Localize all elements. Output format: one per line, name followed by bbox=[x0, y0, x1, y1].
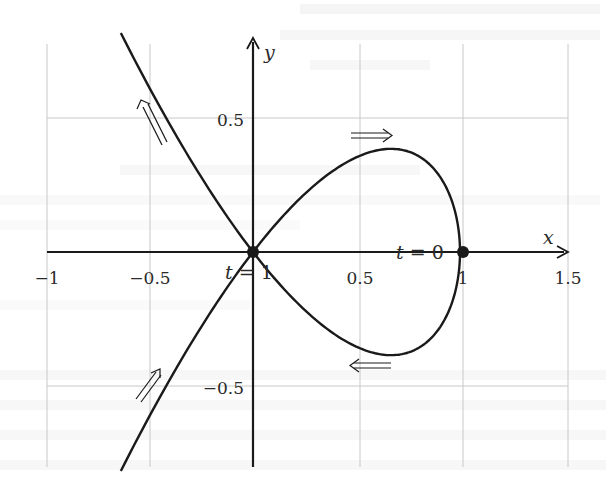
y-tick-label: 0.5 bbox=[217, 110, 244, 130]
y-tick-labels: 0.5 −0.5 bbox=[203, 110, 244, 398]
double-arrow-up-left-icon bbox=[137, 100, 167, 145]
point-t1-marker bbox=[247, 246, 259, 258]
x-tick-label: −1 bbox=[34, 268, 59, 288]
x-tick-label: 1.5 bbox=[554, 268, 581, 288]
x-axis-label: x bbox=[543, 226, 554, 248]
x-tick-label: −0.5 bbox=[129, 268, 170, 288]
x-tick-label: 0.5 bbox=[346, 268, 373, 288]
point-t0-marker bbox=[457, 246, 469, 258]
parametric-curve-figure: x y −1 −0.5 0.5 1 1.5 0.5 −0.5 t = 0 t =… bbox=[0, 0, 606, 491]
double-arrow-right-icon bbox=[351, 129, 392, 142]
x-tick-labels: −1 −0.5 0.5 1 1.5 bbox=[34, 268, 581, 288]
t1-label: t = 1 bbox=[225, 261, 273, 283]
y-axis-label: y bbox=[263, 41, 275, 63]
x-tick-label: 1 bbox=[458, 268, 469, 288]
background-bleed-through bbox=[0, 4, 606, 470]
t0-label: t = 0 bbox=[396, 241, 444, 263]
y-tick-label: −0.5 bbox=[203, 378, 244, 398]
